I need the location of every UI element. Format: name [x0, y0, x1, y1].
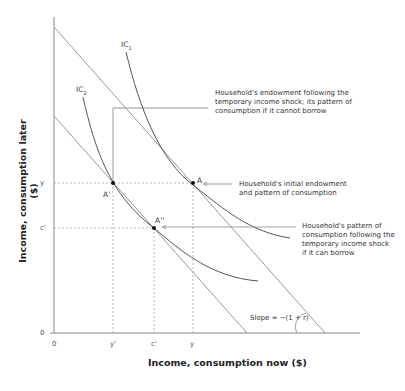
consumption-smoothing-diagram — [0, 0, 405, 391]
slope-angle-arc — [295, 313, 306, 333]
shock-budget-line — [54, 116, 247, 333]
point-a — [191, 181, 195, 185]
ic2-curve — [83, 97, 258, 281]
ic1-curve — [126, 52, 290, 238]
point-a-prime — [111, 181, 115, 185]
guide-lines — [54, 183, 193, 333]
initial-budget-line — [54, 27, 325, 333]
point-a-double-prime — [152, 226, 156, 230]
